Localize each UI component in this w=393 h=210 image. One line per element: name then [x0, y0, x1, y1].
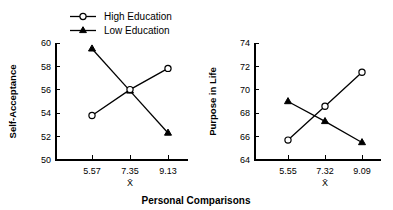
right-y-tick-label: 72 — [240, 62, 250, 72]
open-circle-icon — [359, 69, 365, 75]
right-x-tick-labels: 5.55 7.32 9.09 — [279, 166, 371, 176]
open-circle-icon — [127, 87, 133, 93]
left-axis-spines — [56, 43, 188, 160]
figure-x-axis-title: Personal Comparisons — [142, 195, 251, 206]
left-y-tick-label: 52 — [41, 132, 51, 142]
right-xbar-label: X̄ — [322, 178, 328, 188]
open-circle-icon — [322, 103, 328, 109]
left-x-ticks — [92, 155, 168, 160]
right-y-tick-label: 64 — [240, 155, 250, 165]
right-x-tick-label: 7.32 — [316, 166, 334, 176]
left-y-tick-label: 60 — [41, 38, 51, 48]
right-panel: Purpose in Life 64 66 68 70 72 74 — [207, 38, 381, 188]
left-x-tick-label: 5.57 — [83, 166, 101, 176]
left-y-axis-title: Self-Acceptance — [7, 65, 18, 139]
open-circle-icon — [285, 137, 291, 143]
right-y-tick-labels: 64 66 68 70 72 74 — [240, 38, 250, 165]
filled-triangle-icon — [285, 98, 292, 104]
right-x-tick-label: 5.55 — [279, 166, 297, 176]
left-series-high-education — [89, 65, 171, 118]
open-circle-icon — [165, 65, 171, 71]
left-y-tick-labels: 50 52 54 56 58 60 — [41, 38, 51, 165]
left-panel: Self-Acceptance 50 52 54 56 58 60 — [7, 38, 188, 188]
open-circle-icon — [80, 13, 86, 19]
left-x-tick-label: 7.35 — [121, 166, 139, 176]
legend-label-high-education: High Education — [104, 11, 172, 22]
chart-canvas: High Education Low Education Self-Accept… — [0, 0, 393, 210]
right-x-tick-label: 9.09 — [353, 166, 371, 176]
right-x-ticks — [288, 155, 362, 160]
open-circle-icon — [89, 112, 95, 118]
legend-item-high-education[interactable]: High Education — [70, 11, 172, 22]
legend: High Education Low Education — [70, 11, 172, 36]
filled-triangle-icon — [80, 27, 87, 33]
filled-triangle-icon — [89, 45, 96, 51]
left-y-tick-label: 58 — [41, 62, 51, 72]
left-xbar-label: X̄ — [127, 178, 133, 188]
left-y-tick-label: 50 — [41, 155, 51, 165]
right-y-tick-label: 68 — [240, 108, 250, 118]
left-y-ticks — [56, 43, 60, 160]
left-y-tick-label: 54 — [41, 108, 51, 118]
left-x-tick-labels: 5.57 7.35 9.13 — [83, 166, 177, 176]
right-y-tick-label: 66 — [240, 132, 250, 142]
right-y-axis-title: Purpose in Life — [207, 67, 218, 136]
right-y-tick-label: 70 — [240, 85, 250, 95]
legend-label-low-education: Low Education — [104, 25, 170, 36]
legend-item-low-education[interactable]: Low Education — [70, 25, 170, 36]
right-y-tick-label: 74 — [240, 38, 250, 48]
left-x-tick-label: 9.13 — [159, 166, 177, 176]
left-y-tick-label: 56 — [41, 85, 51, 95]
right-y-ticks — [255, 43, 259, 160]
interaction-plot-figure: High Education Low Education Self-Accept… — [0, 0, 393, 210]
